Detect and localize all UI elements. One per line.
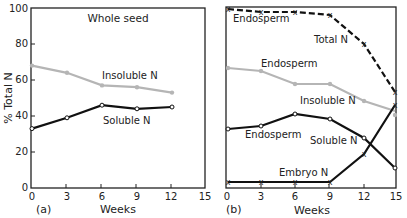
svg-text:x: x bbox=[362, 40, 367, 49]
label-soluble-n-a: Soluble N bbox=[103, 115, 151, 126]
y-tick-80: 80 bbox=[15, 38, 28, 49]
label-insoluble-n-b: Insoluble N bbox=[300, 95, 356, 106]
x-tick-12-b: 12 bbox=[358, 191, 371, 202]
svg-text:x: x bbox=[393, 101, 398, 110]
svg-text:x: x bbox=[259, 178, 264, 187]
x-axis-label-b: Weeks bbox=[294, 204, 330, 217]
whole-seed-title: Whole seed bbox=[87, 12, 148, 24]
panel-a-frame bbox=[31, 8, 205, 188]
svg-text:x: x bbox=[328, 178, 333, 187]
label-endosperm-soluble: Endosperm bbox=[245, 129, 302, 140]
y-axis-label: % Total N bbox=[2, 72, 15, 123]
x-tick-15: 15 bbox=[199, 191, 212, 202]
x-tick-6: 6 bbox=[99, 191, 105, 202]
label-soluble-n-b: Soluble N bbox=[310, 135, 358, 146]
label-endosperm-insoluble: Endosperm bbox=[261, 58, 318, 69]
x-tick-6-b: 6 bbox=[292, 191, 298, 202]
x-tick-12: 12 bbox=[165, 191, 178, 202]
panel-b: 0 3 6 9 12 15 (b) Weeks xxxxxx Endosperm… bbox=[224, 5, 403, 217]
x-axis-label-a: Weeks bbox=[100, 203, 136, 216]
x-tick-3-b: 3 bbox=[258, 191, 264, 202]
y-tick-40: 40 bbox=[15, 110, 28, 121]
y-tick-0: 0 bbox=[22, 182, 28, 193]
y-tick-100: 100 bbox=[9, 3, 28, 14]
x-tick-9-b: 9 bbox=[327, 191, 333, 202]
x-tick-9: 9 bbox=[134, 191, 140, 202]
label-insoluble-n-a: Insoluble N bbox=[102, 70, 158, 81]
label-total-n: Total N bbox=[313, 34, 348, 45]
series-soluble-n-a bbox=[32, 105, 172, 128]
svg-text:x: x bbox=[328, 11, 333, 20]
panel-b-label: (b) bbox=[226, 203, 242, 216]
x-tick-3: 3 bbox=[64, 191, 70, 202]
svg-text:x: x bbox=[362, 150, 367, 159]
figure: 0 20 40 60 80 100 0 3 6 9 12 15 (a) Week… bbox=[0, 0, 407, 218]
label-endosperm-total: Endosperm bbox=[233, 13, 290, 24]
svg-text:x: x bbox=[293, 8, 298, 17]
y-tick-60: 60 bbox=[15, 74, 28, 85]
panel-a: 0 20 40 60 80 100 0 3 6 9 12 15 (a) Week… bbox=[2, 3, 211, 216]
label-embryo-n: Embryo N bbox=[279, 167, 328, 178]
x-tick-15-b: 15 bbox=[390, 191, 403, 202]
svg-text:x: x bbox=[226, 178, 231, 187]
svg-text:x: x bbox=[226, 5, 231, 14]
panel-a-label: (a) bbox=[36, 203, 51, 216]
svg-text:x: x bbox=[393, 88, 398, 97]
y-tick-20: 20 bbox=[15, 146, 28, 157]
svg-text:x: x bbox=[293, 178, 298, 187]
x-tick-0-b: 0 bbox=[224, 191, 230, 202]
x-tick-0: 0 bbox=[29, 191, 35, 202]
